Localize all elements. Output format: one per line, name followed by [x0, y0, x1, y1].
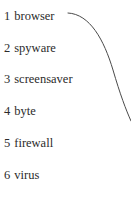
- list-item[interactable]: 6virus: [4, 167, 39, 183]
- list-item[interactable]: 1browser: [4, 8, 55, 24]
- worksheet-page: 1browser 2spyware 3screensaver 4byte 5fi…: [0, 0, 131, 202]
- list-item[interactable]: 4byte: [4, 103, 36, 119]
- vocabulary-list: 1browser 2spyware 3screensaver 4byte 5fi…: [0, 0, 131, 202]
- list-item-number: 1: [4, 8, 10, 24]
- list-item-label: browser: [14, 8, 54, 24]
- list-item-number: 2: [4, 40, 10, 56]
- list-item[interactable]: 2spyware: [4, 40, 56, 56]
- list-item-number: 3: [4, 71, 10, 87]
- list-item-label: virus: [14, 167, 39, 183]
- list-item-label: screensaver: [14, 71, 72, 87]
- list-item-label: firewall: [14, 135, 53, 151]
- list-item-label: spyware: [14, 40, 56, 56]
- list-item-number: 4: [4, 103, 10, 119]
- list-item-number: 5: [4, 135, 10, 151]
- list-item[interactable]: 3screensaver: [4, 71, 73, 87]
- list-item-label: byte: [14, 103, 36, 119]
- list-item[interactable]: 5firewall: [4, 135, 53, 151]
- list-item-number: 6: [4, 167, 10, 183]
